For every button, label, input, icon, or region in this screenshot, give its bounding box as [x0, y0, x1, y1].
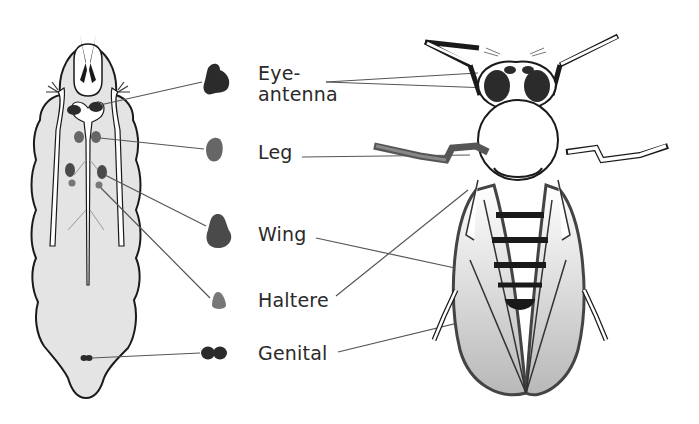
label-genital: Genital: [258, 343, 328, 364]
label-eye-antenna-line2: antenna: [258, 84, 338, 105]
label-leg: Leg: [258, 142, 293, 163]
adult-eye-right: [524, 70, 550, 102]
diagram: Eye- antenna Leg Wing Haltere Genital: [0, 0, 699, 424]
wing-disc-icon: [206, 214, 231, 248]
genital-disc-icon: [201, 347, 215, 360]
larva-eye-antenna-disc-right: [89, 102, 103, 112]
larva-wing-disc-left: [65, 163, 75, 177]
label-eye-antenna-line1: Eye-: [258, 63, 338, 84]
label-eye-antenna: Eye- antenna: [258, 63, 338, 105]
larva-haltere-disc-left: [69, 180, 76, 187]
larva-leg-disc-left: [74, 131, 84, 143]
adult-thorax: [478, 100, 558, 180]
haltere-disc-icon: [212, 292, 226, 309]
larva-head-outline: [74, 44, 102, 96]
label-haltere: Haltere: [258, 290, 329, 311]
larva-leg-disc-right: [91, 131, 101, 143]
larva-drawing: [32, 35, 141, 398]
larva-eye-antenna-disc-left: [67, 105, 81, 115]
adult-eye-left: [484, 70, 510, 102]
eye-antenna-disc-icon: [203, 64, 229, 95]
larva-haltere-disc-right: [96, 182, 103, 189]
label-wing: Wing: [258, 224, 307, 245]
isolated-discs: [201, 64, 231, 360]
larva-wing-disc-right: [97, 165, 107, 179]
leg-disc-icon: [206, 138, 223, 162]
adult-fly-drawing: [374, 36, 668, 395]
